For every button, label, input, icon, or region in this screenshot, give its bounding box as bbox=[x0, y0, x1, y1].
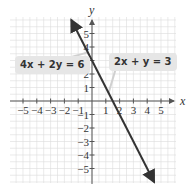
equation-text: 2x + y = 3 bbox=[114, 56, 172, 67]
x-axis-label: x bbox=[179, 94, 186, 108]
svg-text:−5: −5 bbox=[77, 163, 89, 175]
svg-text:−2: −2 bbox=[59, 104, 71, 116]
svg-text:3: 3 bbox=[131, 104, 137, 116]
svg-text:−3: −3 bbox=[45, 104, 57, 116]
equation-text: 4x + 2y = 6 bbox=[20, 59, 85, 70]
svg-text:−3: −3 bbox=[77, 136, 89, 148]
svg-text:−1: −1 bbox=[77, 109, 89, 121]
svg-text:−2: −2 bbox=[77, 122, 89, 134]
y-axis-label: y bbox=[88, 3, 95, 17]
svg-text:5: 5 bbox=[84, 28, 90, 40]
equation-label-right: 2x + y = 3 bbox=[109, 53, 177, 71]
svg-text:1: 1 bbox=[84, 82, 90, 94]
equation-label-left: 4x + 2y = 6 bbox=[15, 56, 90, 74]
svg-text:4: 4 bbox=[144, 104, 150, 116]
svg-text:−4: −4 bbox=[77, 149, 89, 161]
axes bbox=[10, 20, 174, 184]
svg-text:1: 1 bbox=[103, 104, 109, 116]
svg-text:−5: −5 bbox=[17, 104, 29, 116]
svg-text:−4: −4 bbox=[31, 104, 43, 116]
coordinate-plane: −5−4−3−2−112345−5−4−3−2−112345 x y bbox=[0, 0, 191, 194]
grid bbox=[10, 17, 176, 183]
svg-text:5: 5 bbox=[158, 104, 164, 116]
